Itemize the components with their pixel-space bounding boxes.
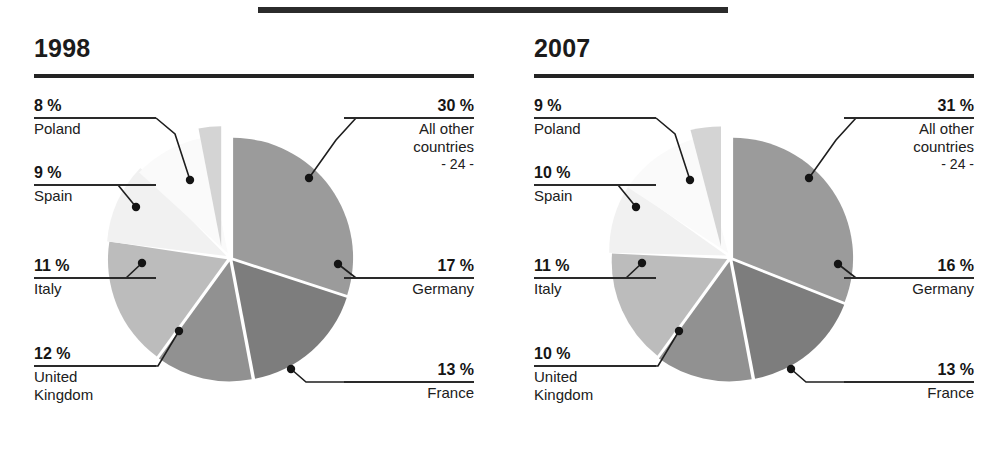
callout-spain-pct: 10 %: [534, 163, 656, 182]
callout-france: 13 % France: [344, 360, 474, 402]
callout-other-subcount: - 24 -: [844, 156, 974, 173]
callout-other-subcount: - 24 -: [344, 156, 474, 173]
dot-germany: [334, 260, 342, 268]
callout-uk-pct: 12 %: [34, 344, 156, 363]
callout-all-other-countries: 30 % All other countries - 24 -: [344, 96, 474, 173]
callout-other-pct: 30 %: [344, 96, 474, 115]
callout-poland-name: Poland: [34, 120, 156, 138]
callout-rule: [844, 277, 974, 279]
callout-rule: [34, 277, 156, 279]
callout-poland-pct: 9 %: [534, 96, 656, 115]
dot-germany: [834, 260, 842, 268]
callout-france-name: France: [844, 384, 974, 402]
callout-other-pct: 31 %: [844, 96, 974, 115]
panel-title-1998: 1998: [34, 33, 90, 63]
callout-italy-name: Italy: [34, 280, 156, 298]
callout-united-kingdom: 10 % United Kingdom: [534, 344, 656, 404]
chart-panel-1998: 1998: [18, 0, 484, 456]
callout-italy: 11 % Italy: [534, 256, 656, 298]
callout-rule: [34, 117, 156, 119]
callout-germany-name: Germany: [344, 280, 474, 298]
callout-germany-pct: 16 %: [844, 256, 974, 275]
callout-rule: [534, 184, 656, 186]
callout-rule: [34, 365, 156, 367]
callout-other-name: All other: [844, 120, 974, 138]
callout-poland: 9 % Poland: [534, 96, 656, 138]
callout-germany: 16 % Germany: [844, 256, 974, 298]
dot-poland: [686, 176, 694, 184]
dot-uk: [175, 327, 183, 335]
dot-france: [287, 365, 295, 373]
chart-panel-2007: 2007: [518, 0, 984, 456]
callout-uk-name: United: [34, 368, 156, 386]
dot-other: [805, 174, 813, 182]
callout-uk-name-line2: Kingdom: [34, 386, 156, 404]
callout-germany: 17 % Germany: [344, 256, 474, 298]
callout-rule: [844, 117, 974, 119]
callout-spain-pct: 9 %: [34, 163, 156, 182]
callout-rule: [534, 277, 656, 279]
callout-poland: 8 % Poland: [34, 96, 156, 138]
callout-italy-pct: 11 %: [534, 256, 656, 275]
callout-france-name: France: [344, 384, 474, 402]
callout-rule: [344, 117, 474, 119]
pie-chart-figure: 1998: [0, 0, 987, 456]
callout-italy: 11 % Italy: [34, 256, 156, 298]
dot-poland: [186, 176, 194, 184]
callout-france-pct: 13 %: [344, 360, 474, 379]
callout-poland-pct: 8 %: [34, 96, 156, 115]
callout-france-pct: 13 %: [844, 360, 974, 379]
callout-italy-name: Italy: [534, 280, 656, 298]
callout-uk-name: United: [534, 368, 656, 386]
callout-rule: [344, 277, 474, 279]
callout-rule: [534, 365, 656, 367]
dot-other: [305, 174, 313, 182]
callout-united-kingdom: 12 % United Kingdom: [34, 344, 156, 404]
callout-spain-name: Spain: [534, 187, 656, 205]
callout-france: 13 % France: [844, 360, 974, 402]
callout-other-name-line2: countries: [844, 138, 974, 156]
callout-other-name: All other: [344, 120, 474, 138]
dot-france: [787, 365, 795, 373]
callout-uk-pct: 10 %: [534, 344, 656, 363]
panel-title-2007: 2007: [534, 33, 590, 63]
callout-all-other-countries: 31 % All other countries - 24 -: [844, 96, 974, 173]
callout-uk-name-line2: Kingdom: [534, 386, 656, 404]
callout-germany-name: Germany: [844, 280, 974, 298]
callout-other-name-line2: countries: [344, 138, 474, 156]
callout-italy-pct: 11 %: [34, 256, 156, 275]
callout-spain-name: Spain: [34, 187, 156, 205]
callout-poland-name: Poland: [534, 120, 656, 138]
callout-rule: [534, 117, 656, 119]
callout-rule: [844, 381, 974, 383]
dot-uk: [675, 327, 683, 335]
callout-spain: 9 % Spain: [34, 163, 156, 205]
callout-germany-pct: 17 %: [344, 256, 474, 275]
callout-spain: 10 % Spain: [534, 163, 656, 205]
callout-rule: [344, 381, 474, 383]
callout-rule: [34, 184, 156, 186]
